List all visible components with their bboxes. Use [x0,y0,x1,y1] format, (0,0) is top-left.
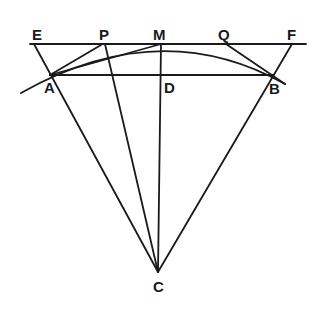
label-e: E [32,26,42,43]
label-f: F [287,26,296,43]
line-fb [158,44,292,272]
label-b: B [269,80,280,97]
label-m: M [153,26,166,43]
line-mc [158,44,161,272]
label-q: Q [218,26,230,43]
label-p: P [99,26,109,43]
label-c: C [153,278,164,295]
geometry-diagram: E P M Q F A D B C [0,0,312,312]
line-pc [105,44,158,272]
line-qb [226,44,285,84]
label-a: A [44,79,55,96]
line-ap [50,45,101,75]
label-d: D [164,79,175,96]
